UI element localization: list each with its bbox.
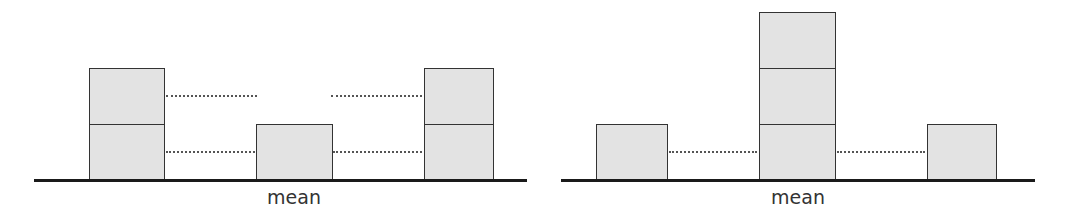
mean-label-left: mean [267, 186, 321, 208]
dotted-connector [333, 151, 422, 153]
dotted-connector [331, 95, 422, 97]
dotted-connector [837, 151, 925, 153]
stack-block [89, 68, 165, 125]
stack-block [89, 124, 165, 181]
dotted-connector [669, 151, 757, 153]
dotted-connector [166, 95, 257, 97]
stack-block [424, 68, 494, 125]
stack-block [927, 124, 997, 181]
dotted-connector [166, 151, 255, 153]
stack-block [256, 124, 333, 181]
mean-label-right: mean [771, 186, 825, 208]
stack-block [759, 68, 836, 125]
stack-block [759, 12, 836, 69]
stack-block [596, 124, 668, 181]
baseline-axis [34, 179, 527, 182]
diagram-canvas [0, 0, 1076, 219]
stack-block [759, 124, 836, 181]
stack-block [424, 124, 494, 181]
baseline-axis [561, 179, 1035, 182]
